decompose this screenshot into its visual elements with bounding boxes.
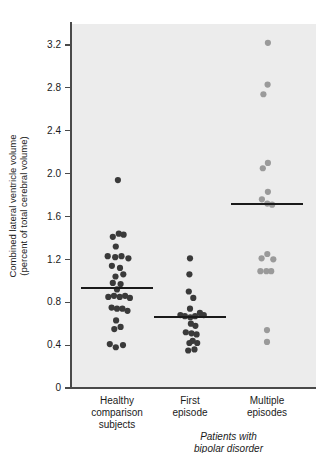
- category-label-line: comparison: [91, 407, 143, 418]
- y-axis-tick-labels: 00.40.81.21.62.02.42.83.2: [47, 39, 61, 393]
- data-point: [118, 253, 124, 259]
- data-point: [114, 286, 120, 292]
- y-tick-label: 0: [55, 382, 61, 393]
- data-point: [188, 330, 194, 336]
- data-point: [114, 306, 120, 312]
- data-point: [113, 344, 119, 350]
- data-point: [265, 189, 271, 195]
- data-point: [110, 280, 116, 286]
- data-point: [190, 295, 196, 301]
- data-point: [264, 251, 270, 257]
- y-axis-title: Combined lateral ventricle volume(percen…: [7, 134, 29, 277]
- y-tick-label: 3.2: [47, 39, 61, 50]
- data-point: [264, 339, 270, 345]
- data-point: [107, 341, 113, 347]
- y-tick-label: 0.8: [47, 296, 61, 307]
- data-point: [120, 342, 126, 348]
- data-point: [186, 271, 192, 277]
- data-point: [260, 91, 266, 97]
- data-point: [257, 268, 263, 274]
- data-point: [194, 331, 200, 337]
- data-point: [118, 324, 124, 330]
- data-point: [185, 347, 191, 353]
- data-point: [124, 308, 130, 314]
- category-label-line: episode: [172, 407, 207, 418]
- data-point: [265, 82, 271, 88]
- y-tick-label: 1.6: [47, 211, 61, 222]
- data-point: [118, 281, 124, 287]
- data-point: [105, 253, 111, 259]
- bracket-label-line: bipolar disorder: [194, 443, 264, 453]
- category-label-line: subjects: [99, 419, 136, 430]
- data-point: [186, 340, 192, 346]
- data-point: [259, 196, 265, 202]
- data-point: [183, 329, 189, 335]
- data-point: [269, 202, 275, 208]
- data-point: [120, 271, 126, 277]
- data-point: [264, 327, 270, 333]
- data-point: [112, 273, 118, 279]
- y-tick-label: 1.2: [47, 254, 61, 265]
- data-point: [117, 294, 123, 300]
- data-point: [109, 263, 115, 269]
- data-point: [260, 165, 266, 171]
- data-point: [268, 268, 274, 274]
- data-point: [187, 255, 193, 261]
- data-point: [192, 323, 198, 329]
- data-point: [270, 256, 276, 262]
- y-tick-label: 2.4: [47, 125, 61, 136]
- category-label-line: First: [180, 395, 200, 406]
- data-point: [113, 317, 119, 323]
- y-tick-label: 0.4: [47, 339, 61, 350]
- y-axis-title-line: Combined lateral ventricle volume: [7, 134, 18, 277]
- data-point: [105, 294, 111, 300]
- category-label-line: episodes: [247, 407, 287, 418]
- bracket-label-line: Patients with: [200, 431, 257, 442]
- data-point: [111, 293, 117, 299]
- data-point: [191, 346, 197, 352]
- data-point: [115, 177, 121, 183]
- chart-canvas: 00.40.81.21.62.02.42.83.2 Combined later…: [0, 0, 322, 453]
- data-point: [110, 234, 116, 240]
- data-point: [125, 255, 131, 261]
- y-tick-label: 2.0: [47, 168, 61, 179]
- data-point: [112, 254, 118, 260]
- data-point: [259, 255, 265, 261]
- data-point: [113, 243, 119, 249]
- category-label-line: Healthy: [100, 395, 134, 406]
- data-point: [121, 232, 127, 238]
- y-tick-label: 2.8: [47, 82, 61, 93]
- scatter-plot-figure: 00.40.81.21.62.02.42.83.2 Combined later…: [0, 0, 322, 453]
- data-point: [186, 288, 192, 294]
- data-point: [109, 305, 115, 311]
- data-point: [127, 295, 133, 301]
- y-axis-title-line: (percent of total cerebral volume): [18, 136, 29, 275]
- category-label-line: Multiple: [250, 395, 285, 406]
- data-point: [265, 40, 271, 46]
- data-point: [111, 326, 117, 332]
- data-point: [187, 306, 193, 312]
- data-point: [117, 265, 123, 271]
- data-point: [194, 340, 200, 346]
- data-point: [182, 313, 188, 319]
- data-point: [265, 160, 271, 166]
